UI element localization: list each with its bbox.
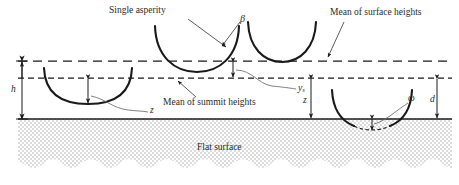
asperity-contact-figure: Single asperity β Mean of surface height… xyxy=(0,0,459,185)
asperity-middle-arc xyxy=(155,26,239,72)
dimension-ys xyxy=(233,62,296,89)
figure-canvas xyxy=(0,0,459,185)
leader-mean-summit-heights xyxy=(178,81,196,97)
label-z-left: z xyxy=(150,106,154,116)
label-mean-surface-heights: Mean of surface heights xyxy=(330,8,422,18)
leader-mean-surface-heights xyxy=(328,22,344,57)
asperity-right-arc xyxy=(248,22,316,62)
label-h: h xyxy=(11,85,16,95)
label-ys: ys xyxy=(298,84,305,94)
label-beta: β xyxy=(240,14,245,24)
label-omega: ω xyxy=(408,94,415,104)
label-mean-summit-heights: Mean of summit heights xyxy=(163,98,256,108)
label-ys-subscript: s xyxy=(302,86,305,93)
label-z-right: z xyxy=(303,96,307,106)
leader-single-asperity xyxy=(188,19,226,47)
label-flat-surface: Flat surface xyxy=(197,143,242,153)
label-single-asperity: Single asperity xyxy=(109,6,166,16)
label-d: d xyxy=(430,95,435,105)
